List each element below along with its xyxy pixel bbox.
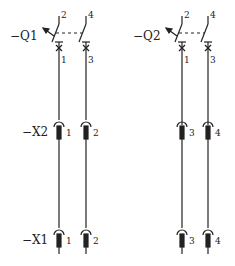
x1-terminal-4: 4	[215, 236, 221, 246]
breaker-q1-label: −Q1	[10, 29, 38, 43]
q1-pole2-top: 4	[88, 10, 94, 20]
q2-pole1-top: 2	[184, 10, 190, 20]
x1-terminal-1: 1	[66, 236, 72, 246]
q1-pole2-bottom: 3	[88, 55, 94, 65]
x2-terminal-1: 1	[66, 128, 72, 138]
terminal-strip-x1-label: −X1	[22, 233, 48, 247]
terminal-strip-x2-label: −X2	[22, 125, 48, 139]
breaker-q2-label: −Q2	[133, 29, 161, 43]
breaker-q2	[166, 16, 212, 120]
x1-terminal-2: 2	[93, 236, 99, 246]
circuit-diagram: −Q1 2 4 1 3 −Q2 2 4 1 3 −X2 1 2 3 4 −X1 …	[0, 0, 235, 266]
q1-pole1-bottom: 1	[61, 55, 67, 65]
q2-pole2-top: 4	[210, 10, 216, 20]
x2-terminal-2: 2	[93, 128, 99, 138]
q1-pole1-top: 2	[61, 10, 67, 20]
x2-terminal-3: 3	[189, 128, 195, 138]
x1-terminal-3: 3	[189, 236, 195, 246]
x2-terminal-4: 4	[215, 128, 221, 138]
q2-pole1-bottom: 1	[184, 55, 190, 65]
q2-pole2-bottom: 3	[210, 55, 216, 65]
breaker-q1	[43, 16, 90, 120]
